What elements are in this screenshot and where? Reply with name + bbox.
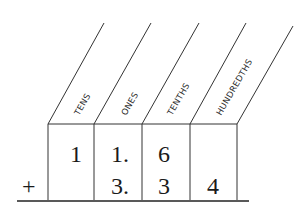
column-label-ones: ONES xyxy=(119,90,140,117)
cell-r1-ones: 1. xyxy=(111,141,129,167)
cell-r2-tenths: 3 xyxy=(158,173,170,199)
place-value-chart: TENS ONES TENTHS HUNDREDTHS 1 1. 6 + 3. … xyxy=(0,0,296,211)
cell-r2-hundredths: 4 xyxy=(207,173,219,199)
plus-operator: + xyxy=(22,173,36,199)
column-label-tenths: TENTHS xyxy=(165,81,192,118)
column-label-tens: TENS xyxy=(72,92,93,118)
cell-r2-ones: 3. xyxy=(111,173,129,199)
cell-r1-tens: 1 xyxy=(70,141,82,167)
cell-r1-tenths: 6 xyxy=(158,141,170,167)
column-label-hundredths: HUNDREDTHS xyxy=(214,57,254,117)
